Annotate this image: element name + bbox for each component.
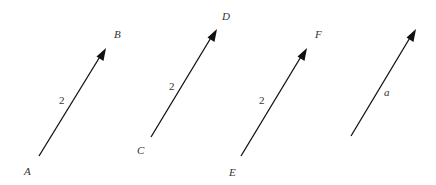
point-label-c: C [137, 144, 145, 156]
point-label-e: E [228, 166, 236, 178]
point-label-f: F [314, 28, 322, 40]
vector-label-a: a [384, 86, 390, 98]
vector-cd: C D 2 [137, 10, 230, 156]
vector-cd-shaft [151, 36, 212, 137]
point-label-b: B [114, 28, 121, 40]
magnitude-label: 2 [259, 94, 265, 106]
vector-ab-shaft [39, 55, 101, 156]
magnitude-label: 2 [169, 80, 175, 92]
vector-ef-shaft [241, 55, 302, 156]
magnitude-label: 2 [59, 94, 65, 106]
vector-ef: E F 2 [228, 28, 322, 178]
vector-diagram: A B 2 C D 2 E F 2 a [0, 0, 436, 185]
vector-a-shaft [351, 36, 411, 136]
vector-a: a [351, 29, 416, 136]
point-label-a: A [23, 165, 31, 177]
vector-ab: A B 2 [23, 28, 121, 177]
point-label-d: D [221, 10, 230, 22]
